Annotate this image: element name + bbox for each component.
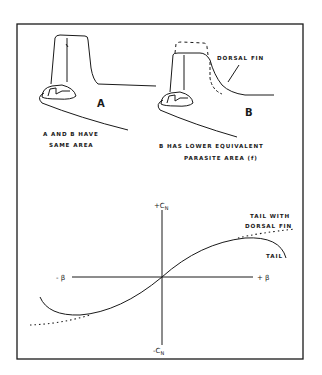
stabilizer-detail-a bbox=[48, 88, 70, 96]
y-neg-label: -CN bbox=[153, 347, 164, 356]
curve-dorsal-fin-right bbox=[238, 229, 295, 238]
caption-b-line2: PARASITE AREA (f) bbox=[184, 155, 258, 161]
dorsal-fin-callout: DORSAL FIN bbox=[217, 55, 264, 61]
y-pos-label: +CN bbox=[154, 202, 169, 211]
graph: +CN -CN - β + β TAIL WITH DORSAL FIN TAI… bbox=[30, 202, 295, 356]
legend-tail-dorsal-line2: DORSAL FIN bbox=[245, 223, 292, 229]
caption-a-line2: SAME AREA bbox=[49, 142, 94, 148]
caption-b-line1: B HAS LOWER EQUIVALENT bbox=[159, 143, 264, 149]
tail-drawing-a bbox=[39, 35, 156, 130]
figure-frame bbox=[17, 24, 303, 359]
diagram-canvas: A A AND B HAVE SAME AREA DORSAL FIN B B … bbox=[0, 0, 322, 375]
x-neg-label: - β bbox=[56, 274, 65, 282]
label-b: B bbox=[245, 107, 253, 118]
x-pos-label: + β bbox=[257, 274, 270, 282]
legend-tail: TAIL bbox=[266, 253, 283, 259]
caption-a-line1: A AND B HAVE bbox=[43, 131, 99, 137]
dorsal-fin-leader bbox=[228, 65, 239, 82]
curve-dorsal-fin-left bbox=[30, 315, 90, 325]
legend-tail-dorsal-line1: TAIL WITH bbox=[250, 213, 290, 219]
stabilizer-detail-b bbox=[167, 95, 188, 103]
stabilizer-b bbox=[161, 92, 193, 106]
label-a: A bbox=[97, 98, 105, 109]
curve-tail bbox=[40, 238, 286, 315]
